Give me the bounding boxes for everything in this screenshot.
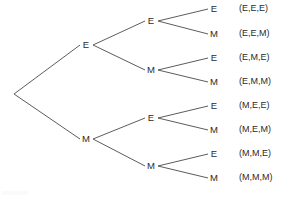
branch-level1-to-level2-1: [93, 45, 145, 70]
branch-level2-to-leaf-3: [158, 70, 208, 82]
tree-diagram: EMEMEM EMEMEMEM (E,E,E)(E,E,M)(E,M,E)(E,…: [0, 0, 281, 197]
node-level2-m-1: M: [147, 64, 155, 75]
outcome-label-6: (M,M,E): [239, 148, 271, 158]
leaf-labels-group: EMEMEMEM: [210, 3, 218, 183]
outcome-label-2: (E,M,E): [239, 52, 270, 62]
branch-level2-to-leaf-4: [158, 106, 208, 118]
outcome-label-1: (E,E,M): [239, 28, 270, 38]
leaf-node-2: E: [211, 52, 217, 63]
node-level1-e-0: E: [83, 39, 89, 50]
scan-artifact: [2, 191, 28, 195]
outcome-label-7: (M,M,M): [239, 172, 273, 182]
branch-level1-to-level2-0: [93, 21, 145, 45]
branch-level1-to-level2-2: [93, 118, 145, 139]
branch-root-to-level1-0: [14, 45, 80, 94]
node-level2-e-2: E: [148, 112, 154, 123]
leaf-node-1: M: [210, 28, 218, 39]
branch-level2-to-leaf-0: [158, 9, 208, 21]
branch-lines-group: [14, 9, 208, 178]
leaf-node-5: M: [210, 124, 218, 135]
branch-level1-to-level2-3: [93, 139, 145, 166]
node-level2-e-0: E: [148, 15, 154, 26]
leaf-node-6: E: [211, 148, 217, 159]
tree-diagram-canvas: EMEMEM EMEMEMEM (E,E,E)(E,E,M)(E,M,E)(E,…: [0, 0, 281, 197]
outcome-labels-group: (E,E,E)(E,E,M)(E,M,E)(E,M,M)(M,E,E)(M,E,…: [239, 3, 273, 182]
leaf-node-3: M: [210, 76, 218, 87]
leaf-node-4: E: [211, 100, 217, 111]
outcome-label-5: (M,E,M): [239, 124, 271, 134]
branch-level2-to-leaf-6: [158, 154, 208, 166]
branch-level2-to-leaf-5: [158, 118, 208, 130]
node-labels-group: EMEMEM: [82, 15, 155, 171]
branch-level2-to-leaf-7: [158, 166, 208, 178]
branch-level2-to-leaf-1: [158, 21, 208, 34]
node-level2-m-3: M: [147, 160, 155, 171]
leaf-node-7: M: [210, 172, 218, 183]
branch-level2-to-leaf-2: [158, 58, 208, 70]
outcome-label-0: (E,E,E): [239, 3, 268, 13]
node-level1-m-1: M: [82, 133, 90, 144]
branch-root-to-level1-1: [14, 94, 80, 139]
leaf-node-0: E: [211, 3, 217, 14]
outcome-label-4: (M,E,E): [239, 100, 270, 110]
outcome-label-3: (E,M,M): [239, 76, 271, 86]
